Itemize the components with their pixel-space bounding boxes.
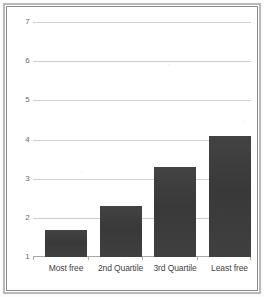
scanned-page: 7 6 5 4 3 2 1 xyxy=(0,0,264,297)
y-tick-label: 6 xyxy=(14,57,30,65)
bar-2nd-quartile xyxy=(100,206,142,257)
bar-chart: 7 6 5 4 3 2 1 xyxy=(0,0,264,297)
y-tick-label: 1 xyxy=(14,253,30,261)
y-axis: 7 6 5 4 3 2 1 xyxy=(13,22,30,257)
x-tick xyxy=(142,257,143,260)
y-tick-label: 7 xyxy=(14,18,30,26)
x-tick xyxy=(197,257,198,260)
bar-most-free xyxy=(45,230,87,257)
x-axis: Most free 2nd Quartile 3rd Quartile Leas… xyxy=(33,263,251,279)
x-tick xyxy=(88,257,89,260)
x-category-label: Least free xyxy=(197,263,263,273)
y-tick-label: 5 xyxy=(14,96,30,104)
bar-least-free xyxy=(209,136,251,257)
x-tick xyxy=(33,257,34,260)
y-tick-label: 4 xyxy=(14,136,30,144)
bar-series xyxy=(33,22,251,257)
y-tick-label: 2 xyxy=(14,214,30,222)
x-tick xyxy=(250,257,251,260)
y-tick-label: 3 xyxy=(14,175,30,183)
bar-3rd-quartile xyxy=(154,167,196,257)
